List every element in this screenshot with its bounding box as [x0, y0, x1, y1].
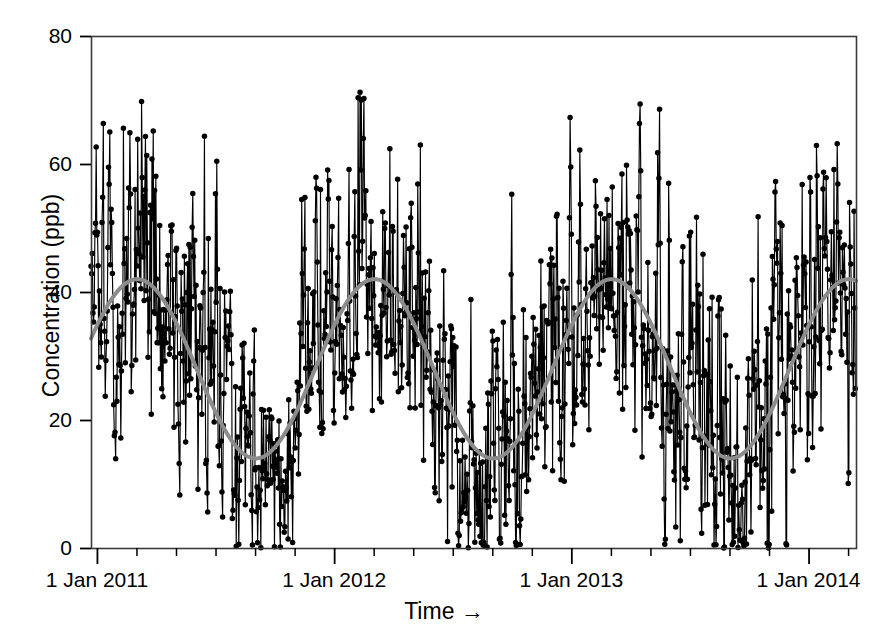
y-axis-tick-label: 80: [0, 24, 72, 48]
y-axis-tick-label: 0: [0, 536, 72, 560]
x-axis-title: Time →: [0, 598, 888, 625]
y-axis-tick-label: 60: [0, 152, 72, 176]
concentration-time-series-plot: [0, 0, 888, 636]
x-axis-tick-label: 1 Jan 2013: [519, 568, 623, 592]
chart-figure: Concentration (ppb) Time → 020406080 1 J…: [0, 0, 888, 636]
x-axis-tick-label: 1 Jan 2011: [46, 568, 148, 592]
y-axis-tick-label: 40: [0, 280, 72, 304]
x-axis-tick-label: 1 Jan 2014: [757, 568, 861, 592]
x-axis-tick-label: 1 Jan 2012: [282, 568, 386, 592]
observed-data-series: [88, 89, 858, 550]
y-axis-tick-label: 20: [0, 408, 72, 432]
